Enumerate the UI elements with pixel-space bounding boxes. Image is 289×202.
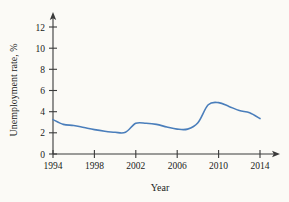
y-tick-label-6: 6 — [40, 86, 45, 96]
x-tick-label-1998: 1998 — [85, 161, 104, 171]
x-tick-label-1994: 1994 — [44, 161, 63, 171]
y-tick-labels: 0 2 4 6 8 10 12 — [36, 23, 46, 160]
x-axis — [53, 151, 280, 157]
x-tick-labels: 1994 1998 2002 2006 2010 2014 — [44, 161, 270, 171]
y-tick-label-12: 12 — [36, 23, 46, 33]
unemployment-rate-chart-figure: 0 2 4 6 8 10 12 1994 1998 2002 2006 2010… — [0, 0, 289, 202]
y-axis-title: Unemployment rate, % — [8, 43, 19, 136]
x-tick-label-2014: 2014 — [251, 161, 270, 171]
x-axis-title: Year — [151, 182, 170, 193]
chart-canvas: 0 2 4 6 8 10 12 1994 1998 2002 2006 2010… — [0, 0, 289, 202]
x-tick-label-2002: 2002 — [126, 161, 145, 171]
y-tick-label-8: 8 — [40, 65, 45, 75]
y-tick-label-0: 0 — [40, 150, 45, 160]
x-tick-label-2006: 2006 — [168, 161, 187, 171]
y-tick-label-10: 10 — [36, 44, 46, 54]
y-tick-label-2: 2 — [40, 128, 45, 138]
unemployment-rate-line — [53, 102, 260, 133]
x-tick-label-2010: 2010 — [209, 161, 228, 171]
y-tick-label-4: 4 — [40, 107, 45, 117]
